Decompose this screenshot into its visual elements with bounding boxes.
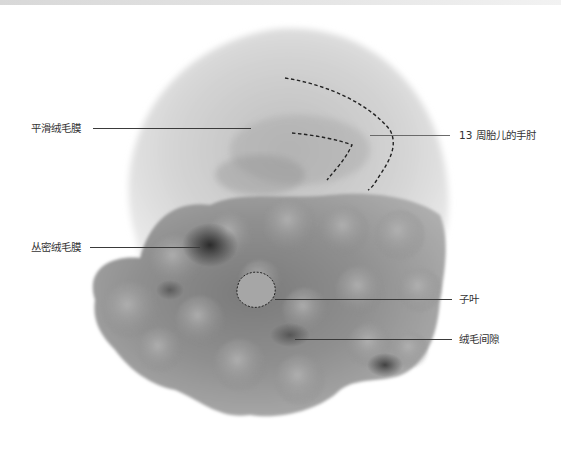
- label-smooth-chorion: 平滑绒毛膜: [31, 122, 81, 134]
- label-cotyledon: 子叶: [459, 293, 479, 305]
- leader-fetal-elbow: [370, 135, 450, 136]
- label-fetal-elbow: 13 周胎儿的手肘: [459, 129, 536, 141]
- leader-smooth-chorion: [93, 128, 251, 129]
- label-intervillous-space: 绒毛间隙: [459, 333, 499, 345]
- leader-cotyledon: [275, 299, 452, 300]
- leader-villous-chorion: [90, 247, 200, 248]
- chorionic-sac-photo: [0, 0, 561, 452]
- cotyledon-shape: [237, 272, 275, 307]
- leader-intervillous-space: [295, 339, 452, 340]
- label-villous-chorion: 丛密绒毛膜: [31, 241, 81, 253]
